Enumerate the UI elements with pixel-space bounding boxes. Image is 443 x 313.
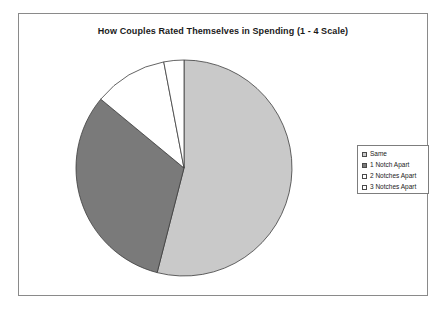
legend-swatch-2-notches-apart [362,174,367,179]
legend-item-2-notches-apart[interactable]: 2 Notches Apart [362,171,425,181]
legend-label-1-notch-apart: 1 Notch Apart [370,162,409,169]
chart-title: How Couples Rated Themselves in Spending… [19,26,427,36]
legend-item-same[interactable]: Same [362,149,425,159]
chart-frame: How Couples Rated Themselves in Spending… [18,13,428,296]
chart-legend: Same 1 Notch Apart 2 Notches Apart 3 Not… [357,145,429,194]
pie-chart [74,58,294,278]
legend-swatch-same [362,152,367,157]
pie-slice-group [76,60,292,276]
legend-swatch-1-notch-apart [362,163,367,168]
legend-label-2-notches-apart: 2 Notches Apart [370,173,416,180]
legend-item-3-notches-apart[interactable]: 3 Notches Apart [362,182,425,192]
legend-label-same: Same [370,151,387,158]
legend-label-3-notches-apart: 3 Notches Apart [370,184,416,191]
pie-chart-svg [74,58,294,278]
legend-swatch-3-notches-apart [362,185,367,190]
legend-item-1-notch-apart[interactable]: 1 Notch Apart [362,160,425,170]
